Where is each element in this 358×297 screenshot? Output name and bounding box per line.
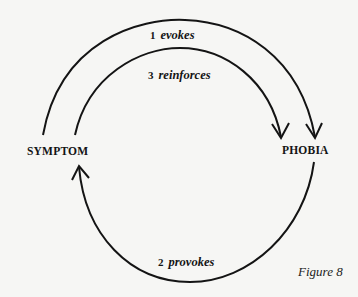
edge-number: 3 xyxy=(148,69,154,81)
node-phobia: PHOBIA xyxy=(282,144,329,156)
edge-verb: evokes xyxy=(161,28,195,42)
edge-verb: provokes xyxy=(169,255,215,269)
edge-verb: reinforces xyxy=(159,68,211,82)
edge-label-provokes: 2provokes xyxy=(158,255,214,270)
node-symptom: SYMPTOM xyxy=(27,145,88,157)
edge-reinforces-arc xyxy=(75,48,281,137)
edge-label-reinforces: 3reinforces xyxy=(148,68,211,83)
edge-number: 1 xyxy=(150,29,156,41)
figure-caption: Figure 8 xyxy=(298,264,343,280)
edge-number: 2 xyxy=(158,256,164,268)
edge-label-evokes: 1evokes xyxy=(150,28,195,43)
